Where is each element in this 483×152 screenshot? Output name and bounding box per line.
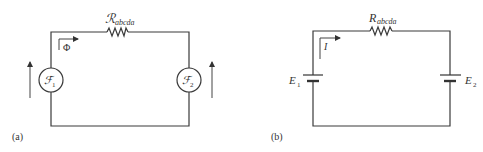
battery-1-subscript: 1 — [297, 81, 301, 89]
resistor-symbol: R — [368, 11, 377, 25]
reluctance-resistor-icon — [107, 28, 128, 36]
battery-1-icon — [303, 75, 323, 81]
resistor-subscript: abcda — [377, 17, 397, 26]
battery-2-icon — [440, 75, 461, 81]
panel-a-caption: (a) — [12, 131, 23, 143]
battery-1-symbol: E — [288, 74, 296, 86]
wire-a-top-right — [128, 32, 189, 68]
current-arrow-icon — [320, 38, 340, 59]
circuit-diagram: ℛ abcda Φ ℱ 1 ℱ 2 (a) R abcda I E 1 — [0, 0, 483, 152]
wire-a-bottom — [51, 92, 189, 126]
reluctance-subscript: abcda — [115, 18, 135, 27]
mmf-source-2-subscript: 2 — [190, 81, 194, 89]
mmf-source-1-subscript: 1 — [52, 81, 56, 89]
battery-2-symbol: E — [464, 74, 472, 86]
current-label: I — [323, 41, 328, 52]
panel-b-electric-circuit: R abcda I E 1 E 2 (b) — [271, 11, 477, 143]
flux-label: Φ — [63, 42, 70, 53]
panel-a-magnetic-circuit: ℛ abcda Φ ℱ 1 ℱ 2 (a) — [12, 11, 212, 143]
panel-b-caption: (b) — [271, 131, 283, 143]
battery-2-subscript: 2 — [473, 81, 477, 89]
wire-b-bottom — [313, 82, 450, 126]
resistor-icon — [370, 27, 392, 35]
wire-b-top-right — [392, 31, 450, 75]
